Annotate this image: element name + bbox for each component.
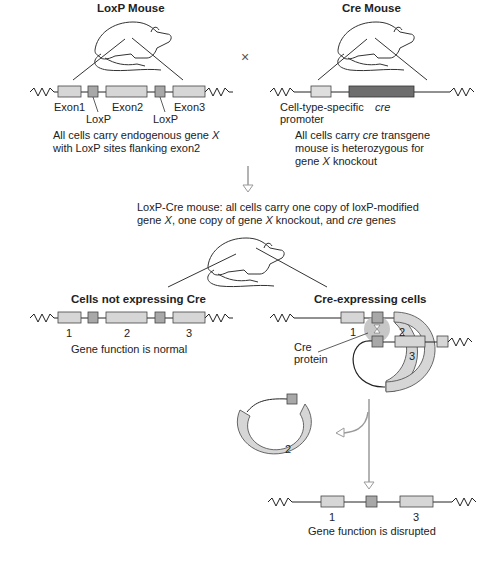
diagram-canvas <box>0 0 502 561</box>
disrupted-gene-construct <box>268 496 476 507</box>
cre-italic: cre <box>347 214 362 226</box>
loxp-mouse-title: LoxP Mouse <box>97 2 165 15</box>
expressing-title: Cre-expressing cells <box>314 293 427 306</box>
cre-protein-label-2: protein <box>294 353 328 366</box>
caption-text: genes <box>363 214 396 226</box>
caption-text: transgene <box>378 129 430 141</box>
cre-mouse-title: Cre Mouse <box>342 2 401 15</box>
caption-text: All cells carry <box>295 129 363 141</box>
exon2-label: Exon2 <box>112 101 143 114</box>
caption-text: , one copy of gene <box>172 214 266 226</box>
result-number-1: 1 <box>329 511 335 524</box>
process-arrow-icon <box>336 399 374 489</box>
exon1-label: Exon1 <box>54 101 85 114</box>
loxp-cre-caption-line2: gene X, one copy of gene X knockout, and… <box>137 214 396 227</box>
excised-exon-label: 2 <box>285 443 291 456</box>
normal-gene-construct <box>30 312 233 323</box>
loxp-caption-line2: with LoxP sites flanking exon2 <box>53 142 200 155</box>
cre-gene-construct <box>270 86 474 97</box>
normal-caption: Gene function is normal <box>71 343 187 356</box>
exon-number-2: 2 <box>124 327 130 340</box>
caption-text: gene <box>295 155 323 167</box>
excised-circle <box>237 394 311 454</box>
loxp-label-a: LoxP <box>86 113 111 126</box>
loxp-caption-line1: All cells carry endogenous gene X <box>53 129 219 142</box>
result-number-3: 3 <box>413 511 419 524</box>
gene-x: X <box>323 155 330 167</box>
cre-caption-line3: gene X knockout <box>295 155 377 168</box>
disrupted-caption: Gene function is disrupted <box>308 525 436 538</box>
cross-symbol: × <box>241 51 249 64</box>
promoter-label-2: promoter <box>280 113 324 126</box>
exon-number-3: 3 <box>186 327 192 340</box>
loxp-cre-mouse-illustration <box>168 238 327 287</box>
exon-number-3: 3 <box>409 350 415 363</box>
caption-text: knockout <box>330 155 377 167</box>
gene-x: X <box>212 129 219 141</box>
cre-italic: cre <box>363 129 378 141</box>
exon3-label: Exon3 <box>174 101 205 114</box>
loxp-mouse-illustration <box>73 22 183 80</box>
cre-mouse-illustration <box>318 22 427 80</box>
caption-text: knockout, and <box>273 214 348 226</box>
gene-x: X <box>265 214 272 226</box>
caption-text: All cells carry endogenous gene <box>53 129 212 141</box>
cre-caption-line1: All cells carry cre transgene <box>295 129 430 142</box>
cre-caption-line2: mouse is heterozygous for <box>295 142 424 155</box>
caption-text: gene <box>137 214 165 226</box>
cre-gene-label: cre <box>375 101 390 114</box>
gene-x: X <box>165 214 172 226</box>
exon-number-1: 1 <box>350 326 356 339</box>
loxp-label-b: LoxP <box>153 113 178 126</box>
down-arrow-icon <box>243 166 253 192</box>
exon-number-1: 1 <box>66 327 72 340</box>
not-expressing-title: Cells not expressing Cre <box>71 293 206 306</box>
loxp-cre-caption-line1: LoxP-Cre mouse: all cells carry one copy… <box>137 201 419 214</box>
exon-number-2: 2 <box>399 326 405 339</box>
